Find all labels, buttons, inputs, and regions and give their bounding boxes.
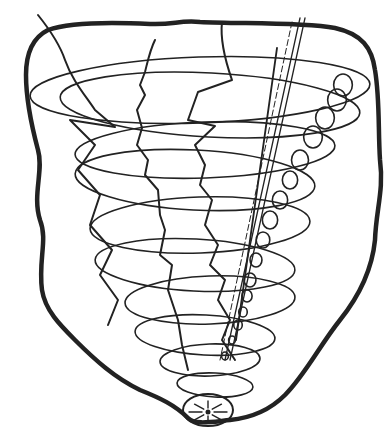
loop [282,171,297,189]
loop [244,273,256,287]
loop [292,150,309,170]
funnel-ring [89,193,311,257]
tornado-drawing [0,0,392,436]
loop [304,126,323,148]
sun-ray [195,404,204,409]
loop [272,191,287,209]
funnel-ring [94,234,296,296]
sun-center-dot [206,410,211,415]
loop-chain [222,74,353,360]
lightning-line-left [38,15,118,325]
funnel-ring [124,273,296,327]
funnel-ring [59,65,362,145]
bottom-sun-circle [183,394,233,426]
loop [316,107,335,129]
loop [262,211,277,229]
sun-ray [195,415,204,420]
outer-border [26,22,381,423]
tornado-illustration [0,0,392,436]
sun-ray [212,415,221,420]
funnel-ring [74,144,317,216]
sun-ray [212,404,221,409]
